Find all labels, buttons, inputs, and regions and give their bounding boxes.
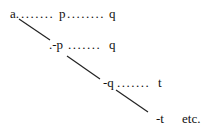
row2-head: .-p — [49, 38, 63, 51]
row1-dots2: ........ — [67, 7, 105, 20]
row4-end: etc. — [182, 112, 200, 125]
row1-head: a. — [10, 7, 19, 20]
row3-head: -q — [103, 76, 114, 89]
branch-line-3 — [116, 90, 148, 112]
row3-end: t — [158, 76, 162, 89]
row1-end: q — [109, 7, 116, 20]
branch-line-2 — [67, 56, 100, 79]
row2-dots1: ....... — [68, 38, 101, 51]
branch-line-1 — [19, 19, 50, 40]
row2-end: q — [109, 38, 116, 51]
row1-mid: p — [59, 7, 66, 20]
row4-head: -t — [156, 112, 164, 125]
row3-dots1: ....... — [117, 76, 150, 89]
row1-dots1: ....... — [21, 7, 54, 20]
